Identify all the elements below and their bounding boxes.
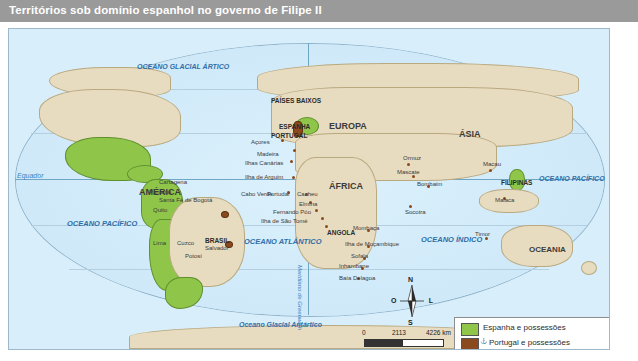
latitude-line	[69, 269, 549, 270]
marker-timor	[485, 237, 488, 240]
label-angola: ANGOLA	[327, 229, 355, 236]
landmass-new-zealand	[581, 261, 597, 275]
scale-tick-2: 4226 km	[426, 329, 451, 336]
label-ilhas-canarias: Ilhas Canárias	[245, 160, 283, 166]
label-macau: Macau	[483, 161, 501, 167]
marker-sao-tome	[325, 225, 328, 228]
anchor-icon: ⚓	[480, 337, 487, 344]
legend-swatch-spain	[461, 323, 479, 336]
marker-acores	[281, 139, 284, 142]
legend-label-portugal: Portugal e possessões	[489, 338, 570, 347]
figure-title: Territórios sob domínio espanhol no gove…	[9, 4, 322, 16]
label-oceano-atlantico: OCEANO ATLÂNTICO	[244, 237, 296, 246]
label-europa: EUROPA	[329, 121, 367, 131]
label-meridiano-greenwich: Meridiano de Greenwich	[297, 265, 303, 330]
compass-needle-icon	[391, 277, 433, 325]
label-acores: Açores	[251, 139, 270, 145]
label-africa: ÁFRICA	[329, 181, 363, 191]
compass-west-label: O	[391, 297, 396, 304]
scale-tick-1: 2113	[392, 329, 406, 336]
label-salvador: Salvador	[205, 245, 229, 251]
label-fernando-poo: Fernando Póo	[273, 209, 311, 215]
marker-madeira	[293, 149, 296, 152]
label-quito: Quito	[153, 207, 167, 213]
marker-elmina	[315, 209, 318, 212]
label-madeira: Madeira	[257, 151, 279, 157]
label-equador: Equador	[17, 172, 43, 179]
label-timor: Timor	[475, 231, 490, 237]
label-espanha: ESPANHA	[279, 123, 310, 130]
label-oceania: OCEANIA	[529, 245, 566, 254]
compass-rose: N S O L	[391, 277, 433, 325]
label-portugal: PORTUGAL	[271, 132, 307, 139]
label-ormuz: Ormuz	[403, 155, 421, 161]
label-oceano-pacifico-leste: OCEANO PACÍFICO	[539, 175, 605, 182]
label-asia: ÁSIA	[459, 129, 481, 139]
label-baia-delagoa: Baía Delagoa	[339, 275, 375, 281]
label-oceano-pacifico-oeste: OCEANO PACÍFICO	[67, 219, 117, 228]
map-figure: Territórios sob domínio espanhol no gove…	[0, 0, 638, 361]
map-canvas: OCEANO GLACIAL ÁRTICO EUROPA ÁSIA ÁFRICA…	[8, 28, 610, 350]
compass-south-label: S	[408, 319, 413, 326]
figure-title-bar: Territórios sob domínio espanhol no gove…	[0, 0, 638, 22]
label-ilha-de-sao-tome: Ilha de São Tomé	[261, 218, 308, 224]
marker-mascate	[412, 175, 415, 178]
legend-label-spain: Espanha e possessões	[483, 323, 566, 332]
marker-ormuz	[407, 163, 410, 166]
label-malaca: Malaca	[495, 197, 514, 203]
label-oceano-glacial-artico: OCEANO GLACIAL ÁRTICO	[137, 63, 229, 70]
label-elmina: Elmina	[299, 201, 317, 207]
marker-canarias	[290, 160, 293, 163]
scale-bar-segment	[365, 340, 403, 346]
label-cacheu: Cacheu	[297, 191, 318, 197]
scale-ratio: 1:211 300 000	[370, 348, 411, 350]
label-panama: Panamá	[149, 189, 171, 195]
label-paises-baixos: PAÍSES BAIXOS	[271, 97, 321, 104]
label-oceano-glacial-antartico: Oceano Glacial Antártico	[239, 321, 322, 328]
label-lima: Lima	[153, 240, 166, 246]
label-mombaca: Mombaça	[353, 225, 379, 231]
label-brasil: BRASIL	[205, 237, 229, 244]
label-inhambane: Inhambane	[339, 263, 369, 269]
label-oceano-indico: OCEANO ÍNDICO	[421, 235, 473, 244]
label-portudal: Portudal	[267, 191, 289, 197]
label-bombaim: Bombaim	[417, 181, 442, 187]
label-ilha-de-arguim: Ilha de Arguim	[245, 174, 283, 180]
marker-arguim	[292, 176, 295, 179]
marker-macau	[489, 169, 492, 172]
compass-north-label: N	[408, 276, 413, 283]
compass-east-label: L	[429, 297, 433, 304]
label-mascate: Mascate	[397, 169, 420, 175]
marker-fernando-poo	[321, 217, 324, 220]
marker-socotra	[409, 205, 412, 208]
map-frame: OCEANO GLACIAL ÁRTICO EUROPA ÁSIA ÁFRICA…	[0, 22, 638, 361]
label-cuzco: Cuzco	[177, 240, 194, 246]
label-filipinas: FILIPINAS	[501, 179, 532, 186]
label-socotra: Socotra	[405, 209, 426, 215]
scale-tick-0: 0	[362, 329, 366, 336]
map-legend: Espanha e possessões ⚓ Portugal e posses…	[454, 317, 610, 350]
scale-bar-track	[364, 339, 444, 347]
label-potosi: Potosí	[185, 253, 202, 259]
label-ilha-de-mocambique: Ilha de Moçambique	[345, 241, 399, 247]
label-sofala: Sofala	[351, 253, 368, 259]
label-santa-fe-de-bogota: Santa Fé de Bogotá	[159, 197, 212, 203]
legend-swatch-portugal	[461, 338, 479, 350]
label-cartagena: Cartagena	[159, 179, 187, 185]
landmass-brazil-coast-marker	[221, 211, 229, 218]
